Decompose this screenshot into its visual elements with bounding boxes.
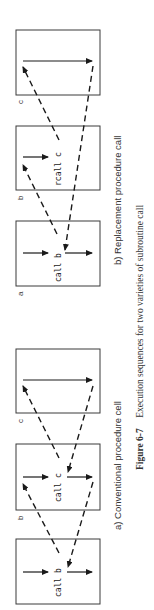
- box-label-c: c: [16, 419, 25, 423]
- figure-6-7: c rcall c b call b a b) Replacement proc…: [0, 0, 154, 610]
- return-transfer-c-to-b: [68, 386, 93, 472]
- figure-caption: Figure 6-7 Execution sequences for two v…: [135, 205, 145, 470]
- box-label-a: a: [16, 291, 25, 296]
- figure-caption-text: Execution sequences for two varieties of…: [135, 205, 145, 418]
- call-c-text: call c: [54, 473, 63, 502]
- return-transfer-c-to-a: [65, 66, 93, 250]
- panel-conventional: c call c b call b a) Conventional proced…: [16, 349, 123, 604]
- figure-number: Figure 6-7: [135, 428, 145, 470]
- return-transfer-b-to-a: [68, 482, 93, 567]
- call-transfer-a-to-b: [23, 165, 57, 234]
- box-label-b: b: [16, 195, 25, 200]
- box-c-replacement: [16, 30, 100, 95]
- call-b-text: call b: [54, 568, 63, 597]
- panel-replacement: c rcall c b call b a b) Replacement proc…: [16, 30, 123, 296]
- call-transfer-b-to-c: [23, 386, 59, 458]
- panel-caption-conventional: a) Conventional procedure cell: [112, 401, 123, 530]
- box-c-conventional: [16, 349, 100, 413]
- call-b-text: call b: [54, 253, 63, 282]
- box-label-c: c: [16, 100, 25, 104]
- rcall-c-text: rcall c: [54, 152, 63, 186]
- rcall-transfer-b-to-c: [23, 67, 59, 140]
- box-label-b: b: [16, 515, 25, 520]
- panel-caption-replacement: b) Replacement procedure call: [112, 136, 123, 265]
